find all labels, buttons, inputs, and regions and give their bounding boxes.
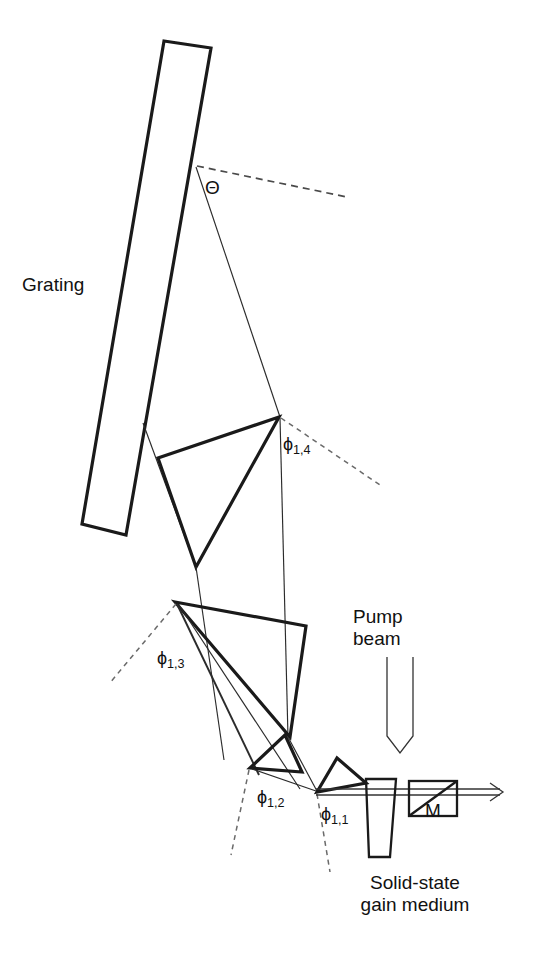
- solid-state-gain-medium: [366, 779, 396, 857]
- ray-grating-to-prism4-upper: [196, 167, 280, 417]
- phi-1-1-subscript: 1,1: [331, 813, 349, 827]
- optics-svg-canvas: [0, 0, 549, 959]
- phi-1-3-reference-dashed-line: [109, 604, 176, 684]
- mirror-label: M: [425, 800, 441, 822]
- pump-beam-label-line2: beam: [353, 628, 401, 649]
- phi-1-2-reference-dashed-line: [231, 770, 249, 855]
- phi-1-4-subscript: 1,4: [293, 443, 311, 457]
- pump-beam-label-line1: Pump: [353, 606, 403, 627]
- gain-medium-label-line1: Solid-state: [370, 872, 460, 893]
- gain-medium-label-line2: gain medium: [361, 894, 470, 915]
- pump-beam-arrow: [387, 657, 413, 753]
- prism-phi-1-1: [317, 758, 366, 792]
- phi-1-1-angle-label: ϕ1,1: [321, 804, 349, 825]
- ray-prism4-right-to-prism3: [280, 418, 288, 737]
- ray-prism3-apex-to-prism2-a: [177, 604, 259, 775]
- grating-label: Grating: [22, 274, 84, 296]
- prism-phi-1-4: [158, 417, 279, 567]
- phi-1-3-angle-label: ϕ1,3: [157, 648, 185, 669]
- phi-1-2-angle-label: ϕ1,2: [257, 787, 285, 808]
- phi-1-4-symbol: ϕ: [283, 434, 293, 454]
- phi-1-3-subscript: 1,3: [167, 657, 185, 671]
- ray-prism4-bottom-to-prism3: [196, 567, 224, 760]
- output-beam-arrowhead: [490, 783, 503, 801]
- phi-1-1-symbol: ϕ: [321, 804, 331, 824]
- optics-diagram: Grating Θ ϕ1,4 ϕ1,3 ϕ1,2 ϕ1,1 Pumpbeam M…: [0, 0, 549, 959]
- gain-medium-label: Solid-stategain medium: [335, 872, 495, 916]
- phi-1-2-symbol: ϕ: [257, 787, 267, 807]
- phi-1-2-subscript: 1,2: [267, 796, 285, 810]
- diffraction-grating: [82, 41, 211, 535]
- theta-angle-label: Θ: [205, 177, 220, 199]
- phi-1-4-angle-label: ϕ1,4: [283, 434, 311, 455]
- pump-beam-label: Pumpbeam: [353, 606, 403, 650]
- ray-prism3-apex-to-prism2-b: [179, 605, 300, 789]
- ray-prism2-to-prism1-b: [288, 737, 318, 793]
- phi-1-3-symbol: ϕ: [157, 648, 167, 668]
